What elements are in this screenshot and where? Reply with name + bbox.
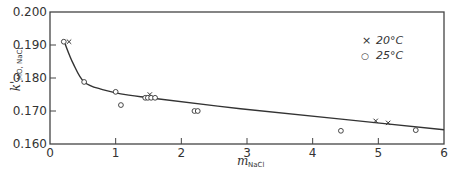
- x-axis-title-sub: NaCl: [248, 161, 264, 169]
- legend-label-25c: 25°C: [376, 49, 403, 62]
- x-tick-label: 4: [309, 146, 317, 160]
- x-tick-label: 1: [112, 146, 120, 160]
- x-tick-label: 6: [440, 146, 448, 160]
- x-tick-label: 5: [375, 146, 383, 160]
- y-axis-title-sub: MO, NaCl: [16, 48, 24, 80]
- marker-circle-25c: [119, 103, 124, 108]
- y-tick-label: 0.160: [13, 137, 47, 151]
- x-tick-label: 0: [46, 146, 54, 160]
- y-axis-title: k' MO, NaCl: [9, 48, 24, 92]
- x-axis-title-main: m: [237, 154, 248, 168]
- legend-symbol-20c: ×: [362, 34, 371, 47]
- marker-circle-25c: [61, 39, 66, 44]
- marker-x-20c: [67, 40, 71, 44]
- marker-circle-25c: [153, 95, 158, 100]
- marker-circle-25c: [113, 89, 118, 94]
- y-axis-title-main: k': [9, 81, 23, 92]
- legend-label-20c: 20°C: [376, 34, 403, 47]
- marker-circle-25c: [339, 128, 344, 133]
- marker-circle-25c: [413, 128, 418, 133]
- legend: × 20°C ○ 25°C: [361, 34, 403, 62]
- marker-circle-25c: [195, 109, 200, 114]
- chart: 0.1600.1700.1800.1900.200 0123456 × 20°C…: [0, 0, 455, 169]
- x-tick-label: 2: [178, 146, 186, 160]
- marker-circle-25c: [82, 80, 87, 85]
- y-tick-label: 0.200: [13, 5, 47, 19]
- y-tick-label: 0.170: [13, 104, 47, 118]
- legend-symbol-25c: ○: [361, 51, 369, 61]
